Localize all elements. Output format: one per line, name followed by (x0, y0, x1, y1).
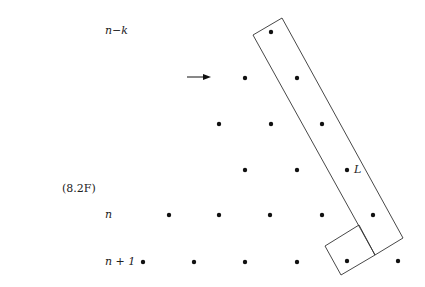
dot (243, 168, 247, 172)
dot (320, 213, 324, 217)
dot (371, 213, 375, 217)
dot (141, 260, 145, 264)
dot (295, 76, 299, 80)
dot (243, 260, 247, 264)
arrow-icon (187, 74, 211, 80)
row-label-n: n (105, 208, 112, 221)
dot (167, 213, 171, 217)
figure-label: (8.2F) (62, 182, 96, 195)
row-label-n-plus-1: n + 1 (105, 255, 135, 268)
small-square (325, 225, 375, 275)
dot (345, 168, 349, 172)
point-label-L: L (353, 163, 361, 176)
dot (243, 76, 247, 80)
dot (396, 259, 400, 263)
dot (217, 213, 221, 217)
dot (268, 213, 272, 217)
dot (269, 30, 273, 34)
dot (269, 122, 273, 126)
dot (217, 122, 221, 126)
row-label-n-minus-k: n−k (105, 24, 128, 37)
dot (295, 168, 299, 172)
dot (295, 260, 299, 264)
dot (320, 122, 324, 126)
dot (345, 259, 349, 263)
diagram-canvas: (8.2F) n−k n n + 1 L (0, 0, 425, 287)
dot (192, 260, 196, 264)
long-rectangle (253, 18, 403, 255)
